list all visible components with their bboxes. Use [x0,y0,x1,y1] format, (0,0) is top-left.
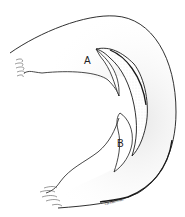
meniscus-diagram: A B ca.haffman [0,0,185,217]
label-a: A [84,55,91,66]
meniscus-body [10,16,176,207]
frayed-end-top [15,59,25,77]
label-b: B [117,138,124,149]
